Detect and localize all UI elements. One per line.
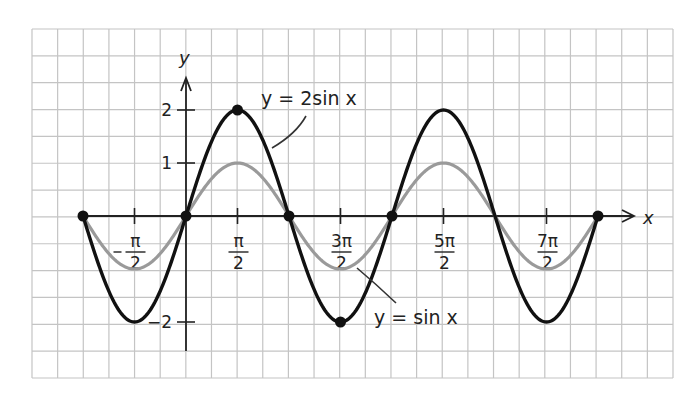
y-tick-label: 2	[161, 100, 172, 120]
marked-point	[387, 211, 398, 222]
sine-graph: π2π23π25π27π221−2 x y y = 2sin x y = sin…	[0, 0, 698, 403]
x-tick-numerator: 5π	[434, 231, 455, 251]
x-tick-numerator: 3π	[331, 231, 352, 251]
x-tick-denominator: 2	[439, 253, 450, 273]
marked-point	[335, 317, 346, 328]
annotation-sin: y = sin x	[374, 306, 458, 328]
x-tick-numerator: π	[130, 231, 140, 251]
x-tick-denominator: 2	[233, 253, 244, 273]
x-axis-label: x	[642, 207, 654, 228]
y-tick-label: −2	[147, 312, 172, 332]
marked-point	[181, 211, 192, 222]
marked-point	[284, 211, 295, 222]
y-tick-label: 1	[161, 153, 172, 173]
marked-point	[77, 211, 88, 222]
marked-point	[593, 211, 604, 222]
x-tick-numerator: π	[233, 231, 243, 251]
y-axis-label: y	[178, 47, 190, 68]
marked-point	[232, 105, 243, 116]
annotation-2sin: y = 2sin x	[261, 87, 357, 109]
grid	[32, 29, 673, 378]
x-tick-numerator: 7π	[537, 231, 558, 251]
